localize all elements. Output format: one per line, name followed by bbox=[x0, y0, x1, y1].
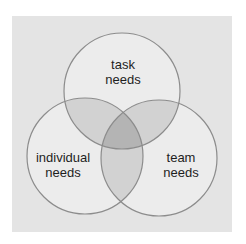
venn-diagram: task needs individual needs team needs bbox=[0, 0, 246, 244]
task-needs-label-line1: task bbox=[111, 57, 135, 72]
task-needs-label-line2: needs bbox=[105, 72, 141, 87]
individual-needs-label-line2: needs bbox=[45, 165, 81, 180]
individual-needs-label-line1: individual bbox=[36, 150, 90, 165]
team-needs-label-line2: needs bbox=[163, 165, 199, 180]
team-needs-label-line1: team bbox=[167, 150, 196, 165]
